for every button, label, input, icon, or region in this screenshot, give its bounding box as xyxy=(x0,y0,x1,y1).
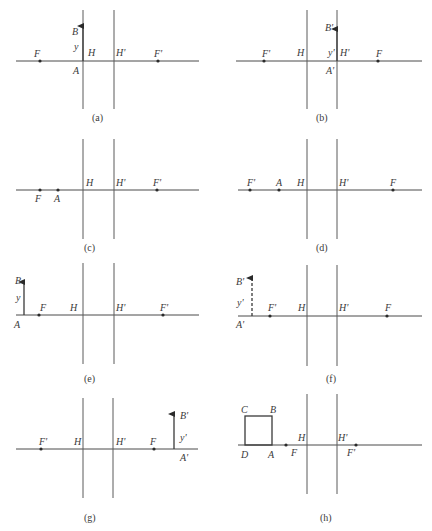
label: H' xyxy=(338,302,349,313)
label: H xyxy=(297,302,306,313)
label: A' xyxy=(325,65,335,76)
point-f xyxy=(385,314,388,317)
point-f xyxy=(391,188,394,191)
panel-d: F'AHH'F(d) xyxy=(238,139,422,254)
label: B xyxy=(72,26,78,37)
panel-e: ByFHH'F'A(e) xyxy=(13,263,199,385)
point-f xyxy=(284,443,287,446)
label: B' xyxy=(325,22,334,33)
point-f xyxy=(152,447,155,450)
label: B' xyxy=(236,276,245,287)
label: F' xyxy=(152,177,162,188)
panel-caption: (a) xyxy=(92,112,103,124)
point-label: F xyxy=(33,48,41,59)
panel-b: F'Hy'H'B'A'F(b) xyxy=(236,10,422,124)
point-f-prime xyxy=(155,188,158,191)
label: y' xyxy=(236,297,244,308)
point-f-prime xyxy=(156,59,159,62)
panel-c: HH'F'FA(c) xyxy=(16,139,199,254)
optics-figure: HH'ByAFF'(a)F'Hy'H'B'A'F(b)HH'F'FA(c)F'A… xyxy=(0,0,432,531)
label: A xyxy=(72,65,80,76)
label: H xyxy=(297,432,306,443)
panel-caption: (d) xyxy=(316,242,328,254)
panel-a: HH'ByAFF'(a) xyxy=(16,10,199,124)
label: y xyxy=(73,41,79,52)
label: A' xyxy=(179,452,189,463)
point-f-prime xyxy=(262,59,265,62)
panel-caption: (f) xyxy=(326,373,336,385)
label: F xyxy=(149,436,157,447)
label: H' xyxy=(115,302,126,313)
panel-caption: (h) xyxy=(320,512,332,524)
label: A' xyxy=(235,319,245,330)
label: H' xyxy=(115,436,126,447)
label: y' xyxy=(179,432,187,443)
panel-h: CBHH'DAFF'(h) xyxy=(238,394,422,524)
label: H' xyxy=(115,177,126,188)
label: F xyxy=(290,447,298,458)
label: C xyxy=(241,404,248,415)
label: F' xyxy=(38,436,48,447)
label: B xyxy=(270,404,276,415)
point-label: F xyxy=(375,48,383,59)
label: D xyxy=(240,449,249,460)
label: y' xyxy=(327,47,335,58)
panel-caption: (g) xyxy=(84,512,96,524)
label: H xyxy=(87,47,96,58)
label: F' xyxy=(267,302,277,313)
point-a xyxy=(56,188,59,191)
point-f xyxy=(38,188,41,191)
label: H xyxy=(85,177,94,188)
point-f-prime xyxy=(248,188,251,191)
label: y xyxy=(15,292,21,303)
point-f-prime xyxy=(161,313,164,316)
point-f-prime xyxy=(39,447,42,450)
label: F xyxy=(34,193,42,204)
point-a xyxy=(277,188,280,191)
point-f xyxy=(37,313,40,316)
label: B' xyxy=(180,410,189,421)
label: A xyxy=(53,193,61,204)
label: H' xyxy=(339,47,350,58)
label: F' xyxy=(346,447,356,458)
label: H xyxy=(296,177,305,188)
label: F' xyxy=(261,48,271,59)
label: H' xyxy=(337,432,348,443)
label: F' xyxy=(246,177,256,188)
label: B xyxy=(15,275,21,286)
label: A xyxy=(13,319,21,330)
label: H xyxy=(296,47,305,58)
label: F' xyxy=(159,302,169,313)
label: F xyxy=(389,177,397,188)
label: H xyxy=(69,302,78,313)
panel-caption: (e) xyxy=(84,373,95,385)
panel-caption: (c) xyxy=(84,242,95,254)
point-label: F' xyxy=(153,48,163,59)
label: H' xyxy=(338,177,349,188)
panel-g: F'HH'FB'y'A'(g) xyxy=(16,398,198,524)
point-f xyxy=(376,59,379,62)
label: F xyxy=(384,302,392,313)
point-f xyxy=(38,59,41,62)
panel-caption: (b) xyxy=(316,112,328,124)
label: F xyxy=(39,302,47,313)
panels-container: HH'ByAFF'(a)F'Hy'H'B'A'F(b)HH'F'FA(c)F'A… xyxy=(13,10,422,524)
label: A xyxy=(275,177,283,188)
panel-f: B'y'A'F'HH'F(f) xyxy=(235,265,422,385)
label: H' xyxy=(115,47,126,58)
label: H xyxy=(73,436,82,447)
label: A xyxy=(267,449,275,460)
point-f-prime xyxy=(268,314,271,317)
object-square xyxy=(245,416,272,445)
